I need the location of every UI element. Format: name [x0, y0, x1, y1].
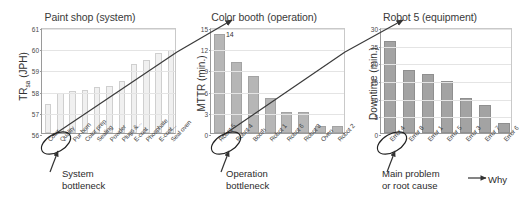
bar: [265, 98, 276, 133]
y-axis-tick-label: 10: [371, 96, 378, 103]
gridline: [211, 114, 344, 115]
gridline: [381, 100, 511, 101]
y-axis-tick-mark: [379, 29, 382, 30]
gridline: [381, 82, 511, 83]
chart-title-paint-shop: Paint shop (system): [0, 11, 180, 23]
gridline: [381, 117, 511, 118]
panel-color-booth: Color booth (operation) MTTR (min.) 14 0…: [170, 0, 350, 204]
y-axis-label-sub: sa: [24, 81, 31, 88]
annotation-operation-bottleneck: Operation bottleneck: [226, 168, 269, 191]
plot-area-color-booth: 14 03691215: [210, 28, 345, 134]
gridline: [211, 50, 344, 51]
bar: [45, 104, 52, 133]
y-axis-tick-label: 20: [371, 61, 378, 68]
y-axis-label-main: TR: [18, 87, 29, 100]
y-axis-tick-label: 59: [32, 68, 39, 75]
y-axis-tick-label: 61: [32, 26, 39, 33]
y-axis-tick-label: 15: [371, 79, 378, 86]
annotation-main-problem: Main problem or root cause: [382, 168, 440, 191]
gridline: [42, 50, 175, 51]
y-axis-tick-mark: [209, 29, 212, 30]
bar: [403, 70, 415, 133]
y-axis-tick-label: 60: [32, 47, 39, 54]
gridline: [381, 64, 511, 65]
y-axis-tick-mark: [379, 135, 382, 136]
gridline: [42, 29, 175, 30]
y-axis-tick-label: 58: [32, 89, 39, 96]
annotation-operation-bottleneck-line1: Operation: [226, 168, 269, 180]
y-axis-label-unit: (JPH): [18, 52, 29, 80]
gridline: [211, 29, 344, 30]
bar-group-color-booth: 14: [211, 29, 344, 133]
y-axis-tick-label: 5: [374, 114, 378, 121]
panel-paint-shop: Paint shop (system) TRsa (JPH) 565758596…: [0, 0, 180, 204]
three-panel-bottleneck-figure: Paint shop (system) TRsa (JPH) 565758596…: [0, 0, 525, 204]
bar-value-label: 14: [226, 31, 234, 38]
chart-title-robot-5: Robot 5 (equipment): [350, 11, 510, 23]
y-axis-tick-label: 6: [204, 89, 208, 96]
y-axis-tick-mark: [40, 93, 43, 94]
bar: [214, 34, 225, 133]
y-axis-tick-mark: [209, 71, 212, 72]
y-axis-tick-label: 57: [32, 110, 39, 117]
y-axis-tick-mark: [209, 135, 212, 136]
y-axis-tick-mark: [379, 117, 382, 118]
y-axis-tick-label: 15: [201, 26, 208, 33]
gridline: [381, 29, 511, 30]
y-axis-tick-label: 0: [374, 132, 378, 139]
annotation-system-bottleneck-line2: bottleneck: [62, 180, 105, 192]
y-axis-tick-label: 56: [32, 132, 39, 139]
bar: [441, 81, 453, 133]
y-axis-label-trsa: TRsa (JPH): [18, 37, 31, 117]
y-axis-tick-mark: [209, 50, 212, 51]
annotation-operation-bottleneck-line2: bottleneck: [226, 180, 269, 192]
plot-area-robot-5: 051015202530: [380, 28, 512, 134]
gridline: [381, 47, 511, 48]
bar: [384, 41, 396, 133]
y-axis-tick-mark: [379, 47, 382, 48]
chart-title-color-booth: Color booth (operation): [184, 11, 344, 23]
y-axis-tick-label: 12: [201, 47, 208, 54]
y-axis-tick-mark: [40, 29, 43, 30]
y-axis-tick-label: 30: [371, 26, 378, 33]
gridline: [42, 71, 175, 72]
y-axis-tick-mark: [209, 93, 212, 94]
panel-robot-5: Robot 5 (equipment) Downtime (min.) 0510…: [340, 0, 525, 204]
y-axis-tick-mark: [40, 114, 43, 115]
y-axis-tick-mark: [40, 135, 43, 136]
y-axis-tick-mark: [40, 71, 43, 72]
y-axis-tick-mark: [379, 82, 382, 83]
annotation-system-bottleneck: System bottleneck: [62, 168, 105, 191]
y-axis-tick-mark: [379, 64, 382, 65]
y-axis-tick-label: 3: [204, 110, 208, 117]
y-axis-tick-mark: [379, 100, 382, 101]
y-axis-tick-mark: [40, 50, 43, 51]
y-axis-tick-label: 9: [204, 68, 208, 75]
y-axis-tick-label: 25: [371, 43, 378, 50]
bar-group-paint-shop: [42, 29, 175, 133]
gridline: [211, 93, 344, 94]
annotation-main-problem-line2: or root cause: [382, 180, 440, 192]
gridline: [42, 93, 175, 94]
gridline: [211, 71, 344, 72]
plot-area-paint-shop: 565758596061: [41, 28, 176, 134]
y-axis-tick-label: 0: [204, 132, 208, 139]
y-axis-tick-mark: [209, 114, 212, 115]
annotation-main-problem-line1: Main problem: [382, 168, 440, 180]
annotation-why: Why: [488, 174, 507, 185]
annotation-system-bottleneck-line1: System: [62, 168, 105, 180]
gridline: [42, 114, 175, 115]
